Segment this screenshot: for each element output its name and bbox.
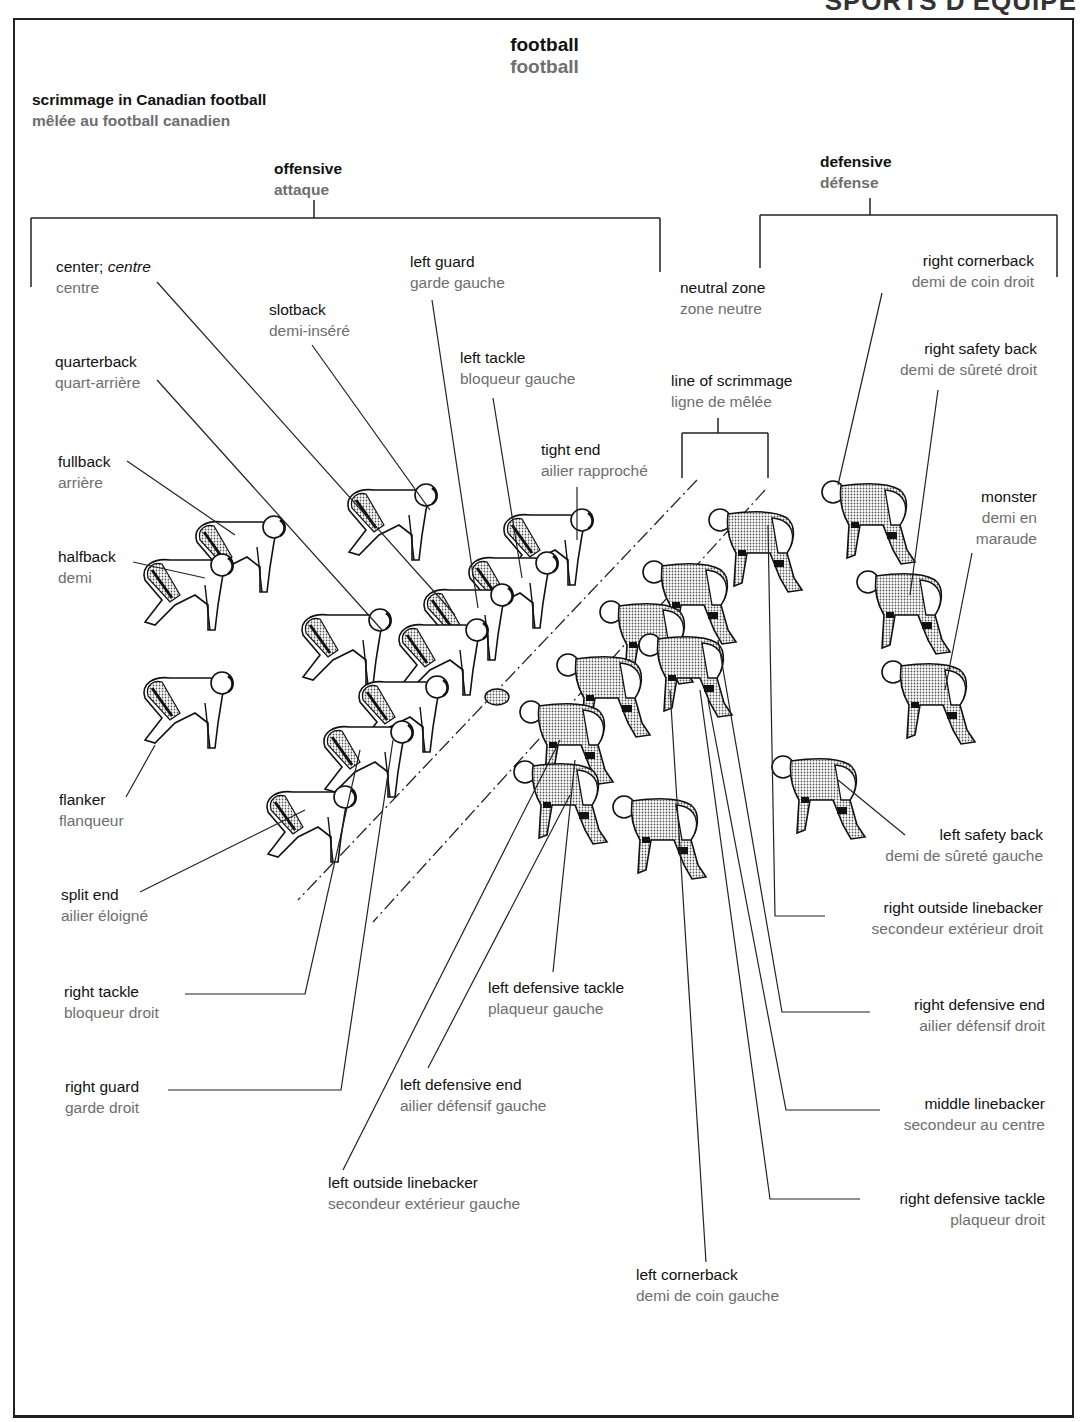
label-right-defensive-tackle: right defensive tackle plaqueur droit xyxy=(899,1188,1045,1230)
offense-players xyxy=(144,484,593,862)
label-left-safety-back: left safety back demi de sûreté gauche xyxy=(885,824,1043,866)
label-center: center; centre centre xyxy=(56,256,151,298)
label-right-safety-back: right safety back demi de sûreté droit xyxy=(900,338,1037,380)
diagram-title: football football xyxy=(0,34,1089,78)
label-left-tackle: left tackle bloqueur gauche xyxy=(460,347,576,389)
subtitle-fr: mêlée au football canadien xyxy=(32,110,266,131)
label-fullback: fullback arrière xyxy=(58,451,111,493)
label-right-defensive-end: right defensive end ailier défensif droi… xyxy=(914,994,1045,1036)
label-offensive: offensive attaque xyxy=(274,158,342,200)
label-flanker: flanker flanqueur xyxy=(59,789,124,831)
label-halfback: halfback demi xyxy=(58,546,116,588)
label-line-of-scrimmage: line of scrimmage ligne de mêlée xyxy=(671,370,792,412)
label-monster: monster demi en maraude xyxy=(976,486,1037,549)
label-left-defensive-end: left defensive end ailier défensif gauch… xyxy=(400,1074,547,1116)
football-ball xyxy=(485,689,509,705)
label-tight-end: tight end ailier rapproché xyxy=(541,439,648,481)
label-left-guard: left guard garde gauche xyxy=(410,251,505,293)
label-left-cornerback: left cornerback demi de coin gauche xyxy=(636,1264,779,1306)
defense-players xyxy=(514,481,975,879)
scrimmage-bracket xyxy=(682,418,768,478)
label-quarterback: quarterback quart-arrière xyxy=(55,351,140,393)
title-fr: football xyxy=(0,56,1089,78)
label-right-outside-linebacker: right outside linebacker secondeur extér… xyxy=(872,897,1043,939)
subtitle-en: scrimmage in Canadian football xyxy=(32,89,266,110)
label-slotback: slotback demi-inséré xyxy=(269,299,350,341)
label-defensive: defensive défense xyxy=(820,151,892,193)
diagram-subtitle: scrimmage in Canadian football mêlée au … xyxy=(32,89,266,131)
label-neutral-zone: neutral zone zone neutre xyxy=(680,277,765,319)
label-right-tackle: right tackle bloqueur droit xyxy=(64,981,159,1023)
title-en: football xyxy=(0,34,1089,56)
label-left-defensive-tackle: left defensive tackle plaqueur gauche xyxy=(488,977,624,1019)
label-left-outside-linebacker: left outside linebacker secondeur extéri… xyxy=(328,1172,520,1214)
label-middle-linebacker: middle linebacker secondeur au centre xyxy=(904,1093,1045,1135)
label-split-end: split end ailier éloigné xyxy=(61,884,148,926)
label-right-cornerback: right cornerback demi de coin droit xyxy=(912,250,1034,292)
label-right-guard: right guard garde droit xyxy=(65,1076,139,1118)
